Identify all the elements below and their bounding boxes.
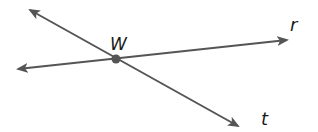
line-t (30, 10, 238, 126)
line-t-label: t (261, 108, 269, 129)
line-r-label: r (290, 14, 299, 35)
line-r (18, 40, 287, 69)
intersecting-lines-diagram: W r t (0, 0, 318, 132)
point-w-label: W (110, 34, 128, 54)
point-w (112, 55, 121, 64)
